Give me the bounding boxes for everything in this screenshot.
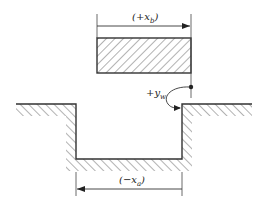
die-cavity [16,104,252,171]
bottom-dimension: (−xa) [76,172,182,196]
upper-block [97,38,191,73]
rotation-label: +yw [146,87,166,101]
bottom-dimension-label: (−xa) [119,174,145,188]
diagram-canvas: (+xb) +yw (−xa) [0,0,272,208]
top-dimension-label: (+xb) [132,11,158,25]
